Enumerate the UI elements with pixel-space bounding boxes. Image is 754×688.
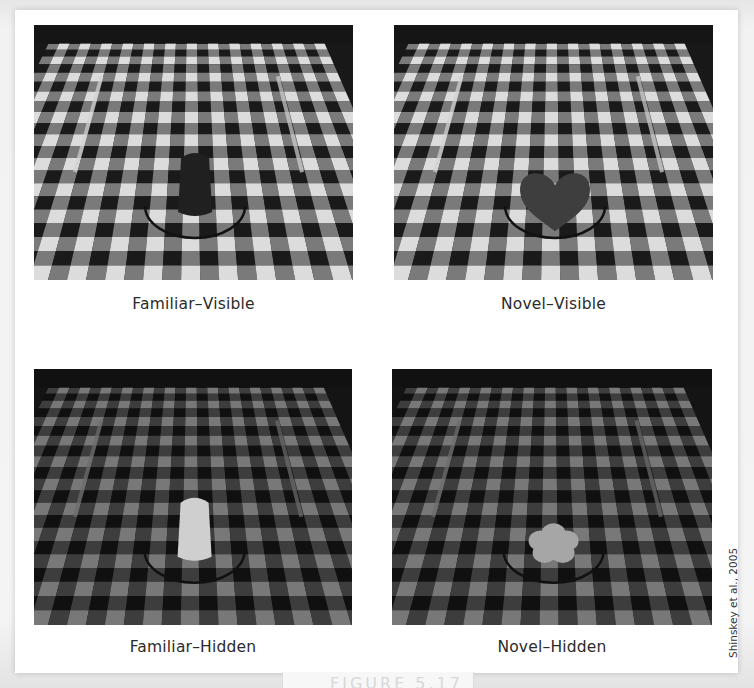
photo-familiar-hidden — [34, 369, 352, 625]
caption-familiar-hidden: Familiar–Hidden — [34, 638, 352, 656]
photo-novel-hidden — [392, 369, 712, 625]
figure-label-partial: FIGURE 5.17 — [330, 674, 463, 688]
tablecloth-scene — [34, 369, 352, 625]
tablecloth-scene — [392, 369, 712, 625]
caption-novel-hidden: Novel–Hidden — [392, 638, 712, 656]
photo-familiar-visible — [34, 25, 353, 280]
photo-credit: Shinskey et al., 2005 — [727, 548, 739, 658]
caption-novel-visible: Novel–Visible — [394, 295, 713, 313]
tablecloth-scene — [394, 25, 713, 280]
tablecloth-scene — [34, 25, 353, 280]
caption-familiar-visible: Familiar–Visible — [34, 295, 353, 313]
photo-novel-visible — [394, 25, 713, 280]
